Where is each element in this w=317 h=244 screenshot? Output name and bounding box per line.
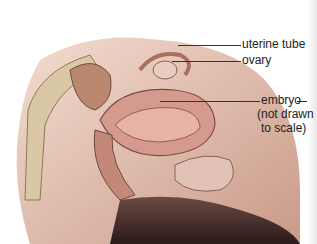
- bladder: [175, 156, 233, 191]
- uterine-tube-leader: [178, 45, 241, 46]
- label-embryo-note-1: (not drawn: [257, 108, 314, 121]
- label-uterine-tube: uterine tube: [242, 38, 305, 51]
- ovary-leader: [172, 61, 241, 62]
- label-embryo-note-2: to scale): [261, 122, 306, 135]
- ovary: [153, 61, 177, 79]
- embryo-leader: [160, 101, 260, 102]
- label-embryo: embryo: [261, 94, 301, 107]
- label-ovary: ovary: [242, 54, 271, 67]
